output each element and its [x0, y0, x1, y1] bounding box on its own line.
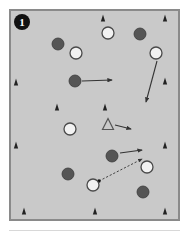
- open-circle-marker: [87, 179, 99, 191]
- solid-triangle-marker: [163, 142, 167, 149]
- figure-bottom-rule: [9, 230, 180, 231]
- open-circle-marker: [64, 123, 76, 135]
- solid-triangle-marker: [14, 142, 18, 149]
- open-circle-marker: [102, 27, 114, 39]
- solid-triangle-marker: [14, 79, 18, 86]
- vector-3: [115, 125, 131, 129]
- open-circle-marker: [70, 47, 82, 59]
- open-circle-marker: [141, 161, 153, 173]
- filled-circle-marker: [62, 168, 74, 180]
- filled-circle-marker: [134, 28, 146, 40]
- vector-5: [99, 159, 142, 181]
- filled-circle-marker: [69, 75, 81, 87]
- filled-circle-marker: [52, 38, 64, 50]
- filled-circle-marker: [137, 186, 149, 198]
- filled-circle-marker: [106, 150, 118, 162]
- open-circle-marker: [150, 47, 162, 59]
- solid-triangle-marker: [93, 208, 97, 215]
- scatter-plot-svg: [0, 0, 189, 238]
- solid-triangle-marker: [103, 104, 107, 111]
- figure-panel: 1: [0, 0, 189, 238]
- solid-triangle-marker: [55, 104, 59, 111]
- solid-triangle-marker: [163, 208, 167, 215]
- solid-triangle-marker: [163, 78, 167, 85]
- solid-triangle-marker: [163, 15, 167, 22]
- vector-1: [82, 80, 112, 81]
- solid-triangle-marker: [101, 15, 105, 22]
- vector-4: [120, 150, 142, 153]
- panel-number-label: 1: [14, 14, 30, 30]
- open-triangle-marker: [103, 119, 114, 130]
- solid-triangle-marker: [22, 208, 26, 215]
- vector-2: [146, 61, 157, 102]
